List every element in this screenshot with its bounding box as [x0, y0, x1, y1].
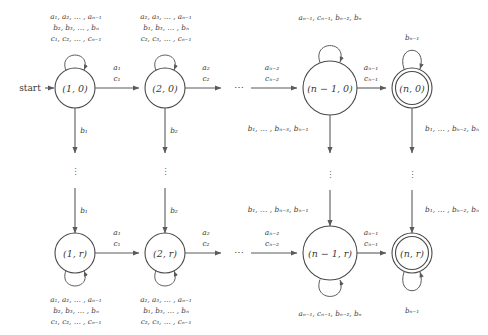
transition-dots-to-n-1-0: aₙ₋₂ cₙ₋₂ [251, 63, 297, 88]
transition-label-line2: cₙ₋₂ [265, 74, 279, 83]
vertical-label-bottom: b₁, … , bₙ₋₂, bₙ [425, 205, 479, 214]
transition-label-line2: c₁ [113, 74, 120, 83]
vertical-label-top: b₂ [170, 126, 178, 135]
self-loop-label-line1: a₂, a₃, … , aₙ₋₁ [140, 12, 192, 21]
self-loop-label-line2: b₁, b₃, … , bₙ [143, 23, 189, 32]
self-loop-label-line1: a₁, a₂, … , aₙ₋₁ [50, 12, 102, 21]
self-loop-label-line2: b₁, b₃, … , bₙ [143, 306, 189, 315]
self-loop-label-line1: bₙ₋₁ [405, 306, 419, 315]
transition-label-line2: cₙ₋₂ [265, 239, 279, 248]
vertical-label-top: b₁, … , bₙ₋₂, bₙ [425, 124, 479, 133]
transition-label-line1: a₁ [113, 63, 120, 72]
transition-label-line2: cₙ₋₁ [364, 74, 378, 83]
transition-label-line1: aₙ₋₂ [265, 63, 279, 72]
transition-label-line2: cₙ₋₁ [364, 239, 378, 248]
vertical-label-bottom: b₁, … , bₙ₋₃, bₙ₋₁ [248, 205, 309, 214]
self-loop-1-r: a₁, a₂, … , aₙ₋₁ b₂, b₃, … , bₙ c₁, c₂, … [50, 271, 102, 327]
transition-dots-to-n-1-r: aₙ₋₂ cₙ₋₂ [251, 228, 297, 253]
state-n-1-r[interactable]: (n − 1, r) [303, 226, 357, 280]
self-loop-label-line1: aₙ₋₁, cₙ₋₁, bₙ₋₂, bₙ [299, 309, 362, 318]
vertical-label-bottom: b₂ [170, 206, 178, 215]
self-loop-n-1-0: aₙ₋₁, cₙ₋₁, bₙ₋₂, bₙ [299, 13, 362, 63]
self-loop-n-r: bₙ₋₁ [403, 272, 422, 315]
state-label: (1, r) [63, 248, 87, 259]
ellipsis-top-row: ⋯ [234, 82, 244, 93]
transition-label-line1: a₁ [113, 228, 120, 237]
self-loop-label-line3: c₂, c₃, … , cₙ₋₁ [141, 34, 192, 43]
transition-label-line2: c₁ [113, 239, 120, 248]
state-n-1-0[interactable]: (n − 1, 0) [303, 61, 357, 115]
transition-label-line1: aₙ₋₁ [364, 228, 378, 237]
start-arrow-group: start [19, 83, 54, 93]
transition-label-line1: aₙ₋₁ [364, 63, 378, 72]
state-label: (2, r) [153, 248, 177, 259]
transition-n-1-r-to-n-r: aₙ₋₁ cₙ₋₁ [357, 228, 386, 253]
state-1-r[interactable]: (1, r) [55, 233, 95, 273]
self-loop-2-r: a₂, a₃, … , aₙ₋₁ b₁, b₃, … , bₙ c₂, c₃, … [140, 271, 192, 327]
self-loop-label-line3: c₂, c₃, … , cₙ₋₁ [141, 317, 192, 326]
vertical-label-bottom: b₁ [80, 206, 88, 215]
transition-label-line1: a₂ [202, 228, 209, 237]
transition-n-1-0-to-n-0: aₙ₋₁ cₙ₋₁ [357, 63, 386, 88]
state-n-0[interactable]: (n, 0) [392, 68, 432, 108]
self-loop-label-line2: b₂, b₃, … , bₙ [53, 306, 99, 315]
ellipsis-vertical: ⋮ [161, 167, 170, 177]
vertical-transition-3: b₁, … , bₙ₋₃, bₙ₋₁ ⋮ b₁, … , bₙ₋₃, bₙ₋₁ [248, 115, 335, 226]
transition-label-line2: c₂ [202, 239, 209, 248]
state-n-r[interactable]: (n, r) [392, 233, 432, 273]
self-loop-label-line1: a₂, a₃, … , aₙ₋₁ [140, 295, 192, 304]
self-loop-label-line1: bₙ₋₁ [405, 33, 419, 42]
automaton-diagram: start (1, 0) (2, 0) (n − 1, 0) (n, 0) (1… [0, 0, 488, 335]
state-label: (1, 0) [62, 83, 88, 94]
vertical-transition-1: b₁ ⋮ b₁ [71, 108, 88, 233]
self-loop-2-0: a₂, a₃, … , aₙ₋₁ b₁, b₃, … , bₙ c₂, c₃, … [140, 12, 192, 71]
transition-1-r-to-2-r: a₁ c₁ [95, 228, 139, 253]
self-loop-label-line3: c₁, c₂, … , cₙ₋₁ [51, 317, 102, 326]
state-2-r[interactable]: (2, r) [145, 233, 185, 273]
transition-1-0-to-2-0: a₁ c₁ [95, 63, 139, 88]
ellipsis-vertical: ⋮ [408, 170, 417, 180]
ellipsis-vertical: ⋮ [326, 170, 335, 180]
state-1-0[interactable]: (1, 0) [55, 68, 95, 108]
vertical-label-top: b₁ [80, 126, 88, 135]
self-loop-label-line3: c₁, c₂, … , cₙ₋₁ [51, 34, 102, 43]
transition-2-r-to-dots: a₂ c₂ [185, 228, 221, 253]
vertical-transition-2: b₂ ⋮ b₂ [161, 108, 178, 233]
state-label: (n − 1, r) [308, 248, 352, 259]
self-loop-label-line1: a₁, a₂, … , aₙ₋₁ [50, 295, 102, 304]
ellipsis-bottom-row: ⋯ [234, 247, 244, 258]
state-label: (2, 0) [152, 83, 178, 94]
vertical-transition-4: b₁, … , bₙ₋₂, bₙ ⋮ b₁, … , bₙ₋₂, bₙ [408, 108, 479, 233]
ellipsis-vertical: ⋮ [71, 167, 80, 177]
start-label: start [19, 83, 41, 93]
state-label: (n, 0) [399, 83, 425, 94]
transition-label-line2: c₂ [202, 74, 209, 83]
transition-label-line1: a₂ [202, 63, 209, 72]
self-loop-n-1-r: aₙ₋₁, cₙ₋₁, bₙ₋₂, bₙ [299, 280, 362, 319]
vertical-label-top: b₁, … , bₙ₋₃, bₙ₋₁ [248, 124, 309, 133]
state-label: (n − 1, 0) [307, 83, 353, 94]
transition-2-0-to-dots: a₂ c₂ [185, 63, 221, 88]
self-loop-1-0: a₁, a₂, … , aₙ₋₁ b₂, b₃, … , bₙ c₁, c₂, … [50, 12, 102, 71]
self-loop-label-line2: b₂, b₃, … , bₙ [53, 23, 99, 32]
transition-label-line1: aₙ₋₂ [265, 228, 279, 237]
self-loop-label-line1: aₙ₋₁, cₙ₋₁, bₙ₋₂, bₙ [299, 13, 362, 22]
self-loop-n-0: bₙ₋₁ [403, 33, 422, 69]
state-2-0[interactable]: (2, 0) [145, 68, 185, 108]
state-label: (n, r) [400, 248, 424, 259]
